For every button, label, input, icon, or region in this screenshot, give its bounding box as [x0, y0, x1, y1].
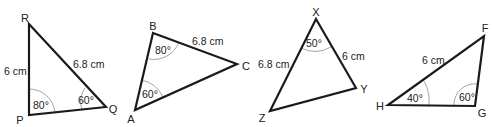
- vertex-label-b: B: [149, 20, 156, 32]
- side-label-xz: 6.8 cm: [258, 58, 290, 70]
- angle-label-x: 50°: [306, 37, 322, 49]
- angle-label-q: 60°: [78, 94, 94, 106]
- angle-label-a: 60°: [142, 88, 158, 100]
- angle-label-g: 60°: [459, 91, 475, 103]
- triangle-xyz: X Y Z 6.8 cm 6 cm 50°: [258, 6, 368, 124]
- side-label-rq: 6.8 cm: [73, 58, 105, 70]
- side-label-xy: 6 cm: [342, 50, 365, 62]
- vertex-label-g: G: [478, 107, 487, 119]
- triangle-fgh: F G H 6 cm 40° 60°: [376, 22, 489, 119]
- vertex-label-p: P: [16, 114, 23, 126]
- side-label-hf: 6 cm: [422, 54, 445, 66]
- vertex-label-y: Y: [360, 83, 368, 95]
- vertex-label-q: Q: [109, 103, 118, 115]
- vertex-label-h: H: [376, 100, 384, 112]
- triangle-pqr: R P Q 6 cm 6.8 cm 80° 60°: [4, 12, 118, 126]
- vertex-label-r: R: [21, 12, 29, 24]
- angle-arc-h: [424, 81, 429, 105]
- side-label-pr: 6 cm: [4, 65, 27, 77]
- vertex-label-f: F: [482, 22, 489, 34]
- triangles-diagram: R P Q 6 cm 6.8 cm 80° 60° B C A 6.8 cm 8…: [0, 0, 492, 127]
- angle-label-b: 80°: [155, 44, 171, 56]
- side-label-bc: 6.8 cm: [192, 35, 224, 47]
- vertex-label-a: A: [127, 113, 135, 125]
- vertex-label-z: Z: [259, 112, 266, 124]
- vertex-label-c: C: [242, 60, 250, 72]
- angle-label-h: 40°: [407, 92, 423, 104]
- triangle-abc: B C A 6.8 cm 80° 60°: [127, 20, 250, 125]
- angle-label-p: 80°: [33, 99, 49, 111]
- vertex-label-x: X: [312, 6, 320, 18]
